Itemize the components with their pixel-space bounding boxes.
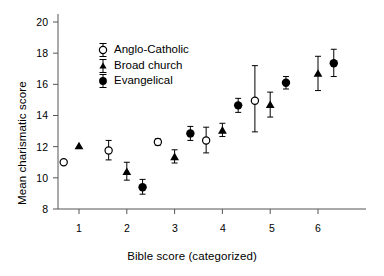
data-point-filled-circle <box>138 183 146 191</box>
legend-item-evangelical: Evangelical <box>112 73 189 89</box>
legend-label-evangelical: Evangelical <box>112 73 173 89</box>
xtick-label-6: 6 <box>308 222 328 234</box>
legend-item-anglo-catholic: Anglo-Catholic <box>112 42 189 58</box>
data-point-filled-triangle <box>122 167 131 175</box>
xtick-label-4: 4 <box>213 222 233 234</box>
legend-item-broad-church: Broad church <box>112 58 189 74</box>
data-point-open-circle <box>105 147 112 154</box>
legend-label-broad-church: Broad church <box>112 58 182 74</box>
legend-label-anglo-catholic: Anglo-Catholic <box>112 42 189 58</box>
ytick-label-20: 20 <box>22 16 48 28</box>
xtick-label-3: 3 <box>165 222 185 234</box>
data-point-filled-triangle <box>75 142 84 150</box>
ytick-label-18: 18 <box>22 47 48 59</box>
open-circle-icon <box>96 42 110 58</box>
data-point-open-circle <box>60 159 67 166</box>
data-point-open-circle <box>203 137 210 144</box>
xtick-label-5: 5 <box>262 222 282 234</box>
data-point-filled-circle <box>234 101 242 109</box>
data-point-filled-triangle <box>266 100 275 108</box>
data-point-filled-triangle <box>314 69 323 77</box>
data-point-filled-circle <box>282 79 290 87</box>
data-point-open-circle <box>251 97 258 104</box>
xtick-label-2: 2 <box>117 222 137 234</box>
filled-triangle-icon <box>96 58 110 74</box>
data-point-filled-circle <box>186 129 194 137</box>
chart-legend: Anglo-Catholic Broad church <box>112 42 189 89</box>
data-point-filled-circle <box>330 59 338 67</box>
chart-figure: 20 18 16 14 12 10 8 1 2 3 4 5 6 Bible sc… <box>0 0 384 276</box>
data-point-open-circle <box>154 138 161 145</box>
x-axis-title: Bible score (categorized) <box>0 250 384 262</box>
scatter-plot-canvas <box>0 0 384 276</box>
y-axis-title: Mean charismatic score <box>16 81 28 205</box>
xtick-label-1: 1 <box>69 222 89 234</box>
filled-circle-icon <box>96 73 110 89</box>
data-point-filled-triangle <box>218 126 227 134</box>
data-point-filled-triangle <box>170 153 179 161</box>
